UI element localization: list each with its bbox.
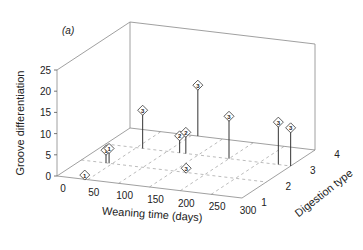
y-tick-label: 1 xyxy=(261,197,267,208)
data-point: 3 xyxy=(286,123,296,133)
z-tick-label: 0 xyxy=(45,171,51,182)
grid-line-y xyxy=(106,144,291,166)
x-tick-label: 0 xyxy=(60,183,66,194)
grid-line-x xyxy=(180,143,253,191)
z-tick-label: 5 xyxy=(45,150,51,161)
y-axis-title: Digestion type xyxy=(292,167,354,219)
top-back-edge xyxy=(130,22,315,44)
z-axis-title: Groove differentiation xyxy=(14,71,26,176)
y-tick-label: 3 xyxy=(310,165,316,176)
floor-left-edge xyxy=(57,128,130,176)
tick-labels: 05101520250501001502002503001234 xyxy=(40,65,340,216)
data-markers: 11132233333 xyxy=(80,80,296,180)
x-tick-label: 200 xyxy=(178,198,195,209)
grid-line-x xyxy=(211,146,284,194)
x-tick-label: 250 xyxy=(209,201,226,212)
chart-container: 11132233333 0510152025050100150200250300… xyxy=(0,0,363,250)
x-tick-label: 100 xyxy=(116,190,133,201)
x-tick-label: 300 xyxy=(240,205,257,216)
data-point: 3 xyxy=(193,80,203,90)
data-point: 3 xyxy=(273,117,283,127)
grid-line-x xyxy=(88,132,161,180)
z-tick-label: 10 xyxy=(40,129,52,140)
y-tick-label: 4 xyxy=(334,149,340,160)
scatter-3d-chart: 11132233333 0510152025050100150200250300… xyxy=(0,0,363,250)
floor-back-edge xyxy=(130,128,315,150)
data-point: 3 xyxy=(224,111,234,121)
y-tick-label: 2 xyxy=(286,181,292,192)
data-point: 3 xyxy=(138,105,148,115)
z-tick-label: 15 xyxy=(40,107,52,118)
x-tick-label: 150 xyxy=(147,194,164,205)
panel-label: (a) xyxy=(62,25,74,36)
x-tick-label: 50 xyxy=(88,187,100,198)
z-tick-label: 25 xyxy=(40,65,52,76)
z-tick-label: 20 xyxy=(40,86,52,97)
grid-line-x xyxy=(119,135,192,183)
